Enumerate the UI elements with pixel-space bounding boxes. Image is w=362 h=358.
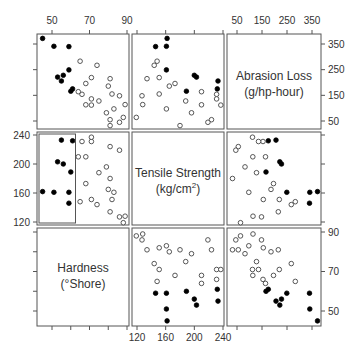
point-tensile-vs-abrasion-9: [264, 170, 269, 175]
point-tensile-vs-hardness-14: [61, 162, 66, 167]
point-hardness-vs-tensile-18: [134, 234, 139, 239]
tick-label-left-tensile-120: 120: [13, 217, 30, 228]
point-tensile-vs-abrasion-22: [261, 197, 266, 202]
point-abrasion-vs-tensile-7: [206, 120, 211, 125]
point-abrasion-vs-tensile-13: [178, 123, 183, 128]
point-hardness-vs-abrasion-27: [289, 261, 294, 266]
point-hardness-vs-abrasion-28: [276, 248, 281, 253]
point-tensile-vs-abrasion-1: [274, 138, 279, 143]
point-abrasion-vs-hardness-26: [78, 59, 83, 64]
point-tensile-vs-abrasion-2: [266, 139, 271, 144]
point-tensile-vs-abrasion-29: [259, 215, 264, 220]
point-hardness-vs-tensile-10: [199, 281, 204, 286]
point-abrasion-vs-hardness-28: [108, 76, 113, 81]
point-tensile-vs-hardness-25: [67, 201, 72, 206]
point-abrasion-vs-hardness-24: [52, 44, 57, 49]
point-tensile-vs-abrasion-5: [250, 135, 255, 140]
tick-label-bottom-tensile-200: 200: [186, 332, 203, 343]
point-abrasion-vs-hardness-19: [67, 68, 72, 73]
point-hardness-vs-abrasion-10: [263, 281, 268, 286]
point-abrasion-vs-tensile-28: [145, 76, 150, 81]
point-abrasion-vs-hardness-9: [69, 89, 74, 94]
point-abrasion-vs-tensile-19: [164, 68, 169, 73]
point-tensile-vs-abrasion-12: [243, 165, 248, 170]
diag-label-hardness: Hardness (°Shore): [57, 261, 108, 291]
point-abrasion-vs-tensile-17: [164, 107, 169, 112]
tick-label-right-hardness-70: 70: [328, 266, 340, 277]
point-abrasion-vs-hardness-23: [123, 102, 128, 107]
point-hardness-vs-tensile-7: [206, 238, 211, 243]
point-tensile-vs-hardness-12: [104, 165, 109, 170]
point-hardness-vs-abrasion-4: [256, 267, 261, 272]
point-hardness-vs-tensile-17: [164, 244, 169, 249]
point-abrasion-vs-hardness-5: [89, 103, 94, 108]
point-hardness-vs-abrasion-22: [261, 246, 266, 251]
brush-rectangle[interactable]: [39, 134, 76, 223]
point-tensile-vs-hardness-24: [52, 190, 57, 195]
point-tensile-vs-abrasion-14: [279, 162, 284, 167]
point-abrasion-vs-hardness-27: [95, 63, 100, 68]
point-hardness-vs-tensile-28: [145, 248, 150, 253]
tick-label-top-abrasion-50: 50: [231, 15, 243, 26]
point-tensile-vs-hardness-1: [59, 138, 64, 143]
point-tensile-vs-hardness-7: [117, 148, 122, 153]
point-abrasion-vs-tensile-22: [157, 92, 162, 97]
point-abrasion-vs-hardness-0: [40, 36, 45, 41]
point-tensile-vs-hardness-20: [89, 197, 94, 202]
point-hardness-vs-tensile-24: [164, 307, 169, 312]
point-tensile-vs-abrasion-17: [247, 190, 252, 195]
point-tensile-vs-abrasion-10: [263, 155, 268, 160]
diag-label-abrasion-unit: (g/hp-hour): [244, 85, 303, 99]
point-hardness-vs-abrasion-16: [254, 259, 259, 264]
point-abrasion-vs-hardness-8: [55, 75, 60, 80]
point-abrasion-vs-hardness-21: [106, 84, 111, 89]
tick-label-right-abrasion-150: 150: [328, 90, 345, 101]
point-hardness-vs-abrasion-20: [277, 267, 282, 272]
point-tensile-vs-abrasion-19: [285, 190, 290, 195]
point-hardness-vs-tensile-12: [189, 251, 194, 256]
point-hardness-vs-tensile-25: [153, 291, 158, 296]
diag-label-tensile-title: Tensile Strength: [135, 166, 221, 180]
tick-label-bottom-tensile-160: 160: [157, 332, 174, 343]
point-hardness-vs-abrasion-1: [274, 299, 279, 304]
point-abrasion-vs-hardness-29: [117, 94, 122, 99]
point-hardness-vs-abrasion-7: [234, 238, 239, 243]
point-hardness-vs-abrasion-6: [236, 248, 241, 253]
point-hardness-vs-tensile-19: [164, 291, 169, 296]
tick-label-right-hardness-50: 50: [328, 306, 340, 317]
point-hardness-vs-abrasion-25: [307, 291, 312, 296]
brush-region[interactable]: [39, 134, 76, 223]
point-tensile-vs-hardness-27: [95, 202, 100, 207]
point-abrasion-vs-tensile-27: [152, 63, 157, 68]
point-hardness-vs-tensile-13: [178, 248, 183, 253]
point-tensile-vs-hardness-22: [110, 197, 115, 202]
point-abrasion-vs-hardness-18: [121, 115, 126, 120]
point-hardness-vs-tensile-9: [184, 289, 189, 294]
point-hardness-vs-tensile-1: [216, 299, 221, 304]
point-hardness-vs-tensile-0: [165, 319, 170, 324]
tick-label-right-abrasion-250: 250: [328, 64, 345, 75]
point-hardness-vs-abrasion-5: [250, 267, 255, 272]
point-tensile-vs-abrasion-13: [230, 176, 235, 181]
point-abrasion-vs-tensile-9: [184, 89, 189, 94]
point-tensile-vs-abrasion-28: [276, 210, 281, 215]
point-hardness-vs-tensile-29: [140, 238, 145, 243]
point-abrasion-vs-hardness-25: [67, 44, 72, 49]
panel-tensile-vs-abrasion: [227, 132, 321, 225]
tick-label-left-tensile-160: 160: [13, 188, 30, 199]
point-abrasion-vs-hardness-14: [61, 73, 66, 78]
scatterplot-matrix: Abrasion Loss (g/hp-hour) Tensile Streng…: [0, 0, 362, 358]
point-abrasion-vs-tensile-0: [165, 36, 170, 41]
point-tensile-vs-hardness-5: [89, 135, 94, 140]
diag-label-abrasion-title: Abrasion Loss: [236, 69, 312, 83]
point-hardness-vs-tensile-5: [219, 267, 224, 272]
tick-label-bottom-tensile-120: 120: [129, 332, 146, 343]
point-hardness-vs-abrasion-26: [293, 279, 298, 284]
point-tensile-vs-abrasion-11: [251, 155, 256, 160]
point-abrasion-vs-tensile-25: [153, 44, 158, 49]
point-tensile-vs-hardness-29: [117, 215, 122, 220]
point-abrasion-vs-tensile-5: [219, 103, 224, 108]
point-abrasion-vs-hardness-12: [104, 111, 109, 116]
point-hardness-vs-abrasion-17: [247, 244, 252, 249]
tick-label-top-abrasion-350: 350: [304, 15, 321, 26]
